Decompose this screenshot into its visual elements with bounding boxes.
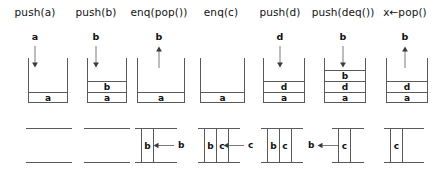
queue-cell-list: c — [338, 129, 350, 162]
stack-cell: d — [263, 81, 305, 92]
arrow-left-icon — [317, 141, 338, 150]
stack-container: a — [28, 58, 68, 103]
queue-container: c — [384, 128, 424, 163]
stack-floor — [324, 102, 366, 103]
stack-container: bda — [324, 58, 366, 103]
stack-cell: d — [324, 81, 366, 92]
stack-floor — [386, 102, 428, 103]
stack-cell-list: da — [386, 81, 428, 103]
stack-cell-list: da — [263, 81, 305, 103]
queue-cell-list: bc — [267, 129, 290, 162]
queue-rail-top — [84, 128, 130, 129]
queue-rail-bottom — [332, 162, 364, 163]
operation-label: push(deq()) — [310, 6, 376, 18]
operation-step-column: x←pop()bdac — [376, 0, 434, 177]
stack-transfer-element: b — [126, 31, 192, 42]
queue-rail-bottom — [261, 162, 303, 163]
queue-container: bc — [261, 128, 303, 163]
operation-label: push(b) — [66, 6, 126, 18]
queue-transfer-flow: b — [153, 139, 184, 152]
queue-rail-bottom — [198, 162, 240, 163]
operation-step-column: enq(c)abcc — [192, 0, 250, 177]
operation-step-column: enq(pop())babb — [126, 0, 192, 177]
queue-transfer-flow: b — [308, 139, 338, 152]
stack-transfer-element: a — [4, 31, 66, 42]
operation-label: enq(pop()) — [126, 6, 192, 18]
stack-cell-list: ba — [87, 81, 127, 103]
stack-cell: d — [386, 81, 428, 92]
stack-transfer-element: b — [376, 31, 434, 42]
stack-container: da — [263, 58, 305, 103]
queue-rail-bottom — [135, 162, 177, 163]
stack-cell: b — [87, 81, 127, 92]
queue-rail-bottom — [84, 162, 130, 163]
queue-cell: c — [338, 129, 351, 162]
stack-floor — [28, 102, 68, 103]
queue-cell: c — [390, 129, 403, 162]
operation-step-column: push(d)ddabc — [250, 0, 310, 177]
operation-step-column: push(deq())bbdacb — [310, 0, 376, 177]
stack-container: a — [200, 58, 245, 103]
stack-transfer-element: b — [66, 31, 126, 42]
arrow-left-icon — [153, 141, 174, 150]
stack-queue-trace-figure: push(a)aapush(b)bbaenq(pop())babbenq(c)a… — [0, 0, 437, 177]
queue-cell: c — [279, 129, 292, 162]
stack-container: ba — [87, 58, 127, 103]
stack-transfer-element: d — [250, 31, 310, 42]
operation-label: push(a) — [4, 6, 66, 18]
stack-cell: b — [324, 70, 366, 81]
queue-cell-list: c — [390, 129, 402, 162]
stack-floor — [263, 102, 305, 103]
operation-step-column: push(b)bba — [66, 0, 126, 177]
stack-container: a — [137, 58, 185, 103]
queue-transfer-element: b — [178, 139, 184, 152]
operation-step-column: push(a)aa — [4, 0, 66, 177]
stack-floor — [137, 102, 185, 103]
stack-floor — [87, 102, 127, 103]
stack-cell-list: bda — [324, 70, 366, 103]
operation-label: push(d) — [250, 6, 310, 18]
stack-container: da — [386, 58, 428, 103]
queue-cell-list: b — [141, 129, 153, 162]
queue-transfer-flow: c — [223, 139, 253, 152]
queue-transfer-element: b — [308, 139, 314, 152]
queue-rail-bottom — [384, 162, 424, 163]
arrow-left-icon — [223, 141, 244, 150]
operation-label: x←pop() — [376, 6, 434, 18]
stack-floor — [200, 102, 245, 103]
stack-transfer-element: b — [310, 31, 376, 42]
queue-container — [84, 128, 130, 163]
operation-label: enq(c) — [192, 6, 250, 18]
